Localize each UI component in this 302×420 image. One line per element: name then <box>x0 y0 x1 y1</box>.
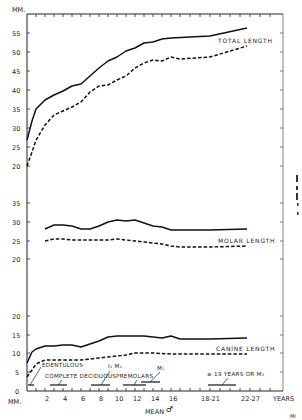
x-tick-14: 14 <box>151 395 159 403</box>
y-tick-45: 45 <box>12 68 20 76</box>
m2-annotation: M₂ <box>157 365 165 371</box>
y-unit-label-bottom: MM. <box>8 398 21 406</box>
y-tick-mid-20: 20 <box>12 256 20 264</box>
x-tick-18-21: 18-21 <box>201 395 220 403</box>
y-tick-40: 40 <box>12 87 20 95</box>
total-length-label: TOTAL LENGTH <box>217 37 273 44</box>
premolars-annotation: PREMOLARS <box>116 373 153 379</box>
x-tick-8: 8 <box>99 395 103 403</box>
y-tick-bot-15: 15 <box>12 332 20 340</box>
y-tick-bot-5: 5 <box>15 369 19 377</box>
total-length-dashed-line <box>27 46 247 166</box>
right-y-ticks <box>280 33 283 372</box>
corner-mark: MI <box>290 413 296 419</box>
y-tick-mid-25: 25 <box>12 238 20 246</box>
y-tick-20: 20 <box>12 163 20 171</box>
male-symbol-icon: ♂ <box>166 405 173 414</box>
x-tick-4: 4 <box>63 395 67 403</box>
growth-chart: MM. 55 50 45 40 35 30 25 20 35 30 25 20 … <box>0 0 302 420</box>
x-tick-2: 2 <box>45 395 49 403</box>
y-tick-mid-30: 30 <box>12 219 20 227</box>
x-tick-6: 6 <box>81 395 85 403</box>
x-tick-10: 10 <box>115 395 123 403</box>
x-tick-12: 12 <box>133 395 141 403</box>
y-tick-bot-10: 10 <box>12 350 20 358</box>
x-axis-title: MEAN <box>145 408 164 416</box>
y-unit-label: MM. <box>12 6 25 14</box>
molar-length-solid-line <box>45 220 247 230</box>
y-tick-25: 25 <box>12 144 20 152</box>
i1-m1-annotation: I₁ M₁ <box>108 363 122 369</box>
y-tick-30: 30 <box>12 125 20 133</box>
y-tick-55: 55 <box>12 30 20 38</box>
cropped-side-text <box>296 175 299 215</box>
complete-deciduous-annotation: COMPLETE DECIDUOUS <box>45 373 116 379</box>
molar-length-label: MOLAR LENGTH <box>218 237 275 244</box>
canine-length-solid-line <box>27 336 247 363</box>
x-tick-22-27: 22-27 <box>241 395 260 403</box>
x-tick-16: 16 <box>169 395 177 403</box>
y-tick-50: 50 <box>12 49 20 57</box>
edentulous-annotation: EDENTULOUS <box>42 362 83 368</box>
y-tick-bot-20: 20 <box>12 313 20 321</box>
y-tick-35: 35 <box>12 106 20 114</box>
x-unit-label: YEARS <box>272 395 294 403</box>
canine-length-label: CANINE LENGTH <box>216 345 275 352</box>
y-tick-mid-35: 35 <box>12 200 20 208</box>
molar-length-dashed-line <box>45 239 247 247</box>
adult-annotation: ≥ 19 YEARS OR M₃ <box>207 371 264 377</box>
total-length-solid-line <box>27 28 247 140</box>
y-tick-bot-0: 0 <box>15 388 19 396</box>
